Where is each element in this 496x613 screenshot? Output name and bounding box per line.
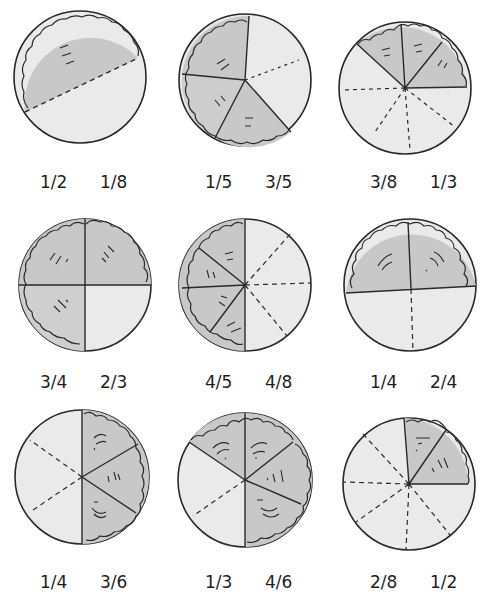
pie-chart-fifths [165,0,330,172]
fraction-label: 3/8 [370,172,397,192]
pie-chart-halves [0,0,165,172]
pie-cell-8: 1/3 4/6 [165,400,330,600]
fraction-label: 4/8 [265,372,292,392]
fraction-label: 1/3 [205,572,232,592]
fraction-label: 1/8 [100,172,127,192]
fraction-label: 2/3 [100,372,127,392]
fraction-label: 2/4 [430,372,457,392]
pie-labels: 4/5 4/8 [165,372,330,398]
pie-chart-sixths [0,400,165,572]
fraction-label: 1/4 [40,572,67,592]
pie-labels: 1/4 3/6 [0,572,165,598]
pie-chart-mixed [165,200,330,372]
fraction-label: 2/8 [370,572,397,592]
pie-labels: 3/4 2/3 [0,372,165,398]
pie-cell-2: 1/5 3/5 [165,0,330,200]
fraction-label: 1/4 [370,372,397,392]
fraction-label: 1/5 [205,172,232,192]
fraction-label: 3/6 [100,572,127,592]
pie-chart-fourths-half [330,200,495,372]
pie-chart-quarters [0,200,165,372]
pie-chart-sixths-four [165,400,330,572]
pie-cell-5: 4/5 4/8 [165,200,330,400]
pie-labels: 1/3 4/6 [165,572,330,598]
fraction-label: 1/2 [40,172,67,192]
fraction-label: 4/5 [205,372,232,392]
pie-labels: 3/8 1/3 [330,172,495,198]
pie-cell-6: 1/4 2/4 [330,200,495,400]
pie-cell-1: 1/2 1/8 [0,0,165,200]
pie-labels: 1/5 3/5 [165,172,330,198]
pie-labels: 2/8 1/2 [330,572,495,598]
fraction-label: 1/3 [430,172,457,192]
fraction-label: 3/5 [265,172,292,192]
pie-cell-7: 1/4 3/6 [0,400,165,600]
pie-cell-9: 2/8 1/2 [330,400,495,600]
fraction-label: 3/4 [40,372,67,392]
pie-chart-eighths-two [330,400,495,572]
pie-labels: 1/4 2/4 [330,372,495,398]
pie-cell-4: 3/4 2/3 [0,200,165,400]
fraction-label: 4/6 [265,572,292,592]
fraction-label: 1/2 [430,572,457,592]
pie-chart-eighths [330,0,495,172]
pie-cell-3: 3/8 1/3 [330,0,495,200]
pie-labels: 1/2 1/8 [0,172,165,198]
